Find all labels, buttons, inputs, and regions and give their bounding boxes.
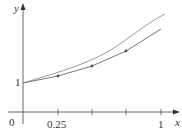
- x-axis-arrow-icon: [173, 110, 180, 115]
- exact-curve: [23, 14, 165, 83]
- x-tick-label-1: 1: [158, 119, 164, 130]
- y-axis-arrow-icon: [21, 3, 26, 10]
- y-axis-label: y: [14, 3, 19, 14]
- euler-polyline: [23, 29, 161, 83]
- x-tick-label-0.25: 0.25: [47, 119, 66, 130]
- y-tick-label-1: 1: [15, 77, 21, 88]
- x-axis-label: x: [175, 117, 180, 128]
- origin-label: 0: [9, 117, 15, 128]
- chart-plot: [0, 0, 182, 135]
